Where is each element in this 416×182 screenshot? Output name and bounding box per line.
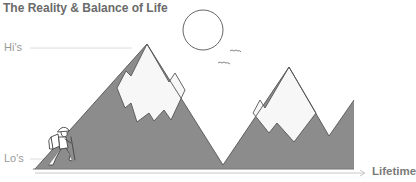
sun-icon [183,10,223,50]
bird-icon [218,62,230,64]
bird-icon [230,50,241,52]
